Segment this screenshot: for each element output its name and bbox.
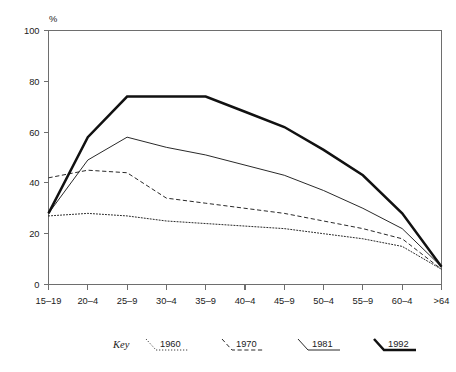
legend-label-1960: 1960 — [160, 339, 181, 349]
legend-item-1992[interactable]: 1992 — [374, 339, 416, 350]
plot-frame — [49, 31, 442, 285]
x-tick-label: 50–4 — [313, 296, 334, 306]
y-tick-label: 0 — [34, 280, 39, 290]
series-line-1992 — [49, 97, 442, 267]
series-line-1981 — [49, 137, 442, 267]
series-line-1970 — [49, 170, 442, 269]
plot-border — [49, 31, 442, 285]
x-tick-label: 35–9 — [195, 296, 216, 306]
y-tick-label: 20 — [29, 229, 39, 239]
x-tick-label: 25–9 — [117, 296, 138, 306]
legend-title: Key — [112, 339, 130, 350]
line-chart: 020406080100 15–1920–425–930–435–940–445… — [0, 0, 456, 372]
x-axis-ticks — [49, 285, 442, 290]
x-tick-label: 45–9 — [274, 296, 295, 306]
chart-container: 020406080100 15–1920–425–930–435–940–445… — [0, 0, 456, 372]
chart-legend: Key1960197019811992 — [112, 339, 416, 350]
data-series-group — [49, 97, 442, 270]
x-tick-label: 60–4 — [392, 296, 413, 306]
x-tick-label: >64 — [434, 296, 450, 306]
x-tick-label: 20–4 — [77, 296, 98, 306]
y-axis-unit-label: % — [49, 14, 57, 24]
axis-lines — [49, 31, 442, 285]
y-axis-ticks — [44, 31, 49, 285]
y-tick-label: 80 — [29, 77, 39, 87]
x-tick-label: 15–19 — [36, 296, 62, 306]
y-axis-tick-labels: 020406080100 — [24, 26, 40, 290]
legend-item-1970[interactable]: 1970 — [222, 339, 264, 350]
legend-item-1960[interactable]: 1960 — [146, 339, 188, 350]
legend-label-1981: 1981 — [312, 339, 333, 349]
legend-label-1992: 1992 — [388, 339, 409, 349]
y-tick-label: 100 — [24, 26, 40, 36]
series-line-1960 — [49, 213, 442, 269]
x-tick-label: 55–9 — [353, 296, 374, 306]
x-axis-tick-labels: 15–1920–425–930–435–940–445–950–455–960–… — [36, 296, 450, 306]
legend-label-1970: 1970 — [236, 339, 257, 349]
y-tick-label: 60 — [29, 128, 39, 138]
x-tick-label: 40–4 — [235, 296, 256, 306]
legend-item-1981[interactable]: 1981 — [298, 339, 340, 350]
y-tick-label: 40 — [29, 178, 39, 188]
x-tick-label: 30–4 — [156, 296, 177, 306]
